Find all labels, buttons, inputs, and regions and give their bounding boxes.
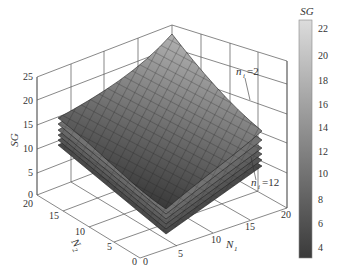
- svg-text:12: 12: [318, 146, 328, 157]
- svg-text:2: 2: [71, 247, 80, 254]
- svg-text:5: 5: [178, 248, 183, 259]
- n2-axis-label: N 2: [66, 236, 85, 255]
- svg-text:18: 18: [318, 75, 328, 86]
- n2-axis-ticks: 20 15 10 5 0: [23, 198, 137, 267]
- svg-text:15: 15: [245, 221, 255, 232]
- n1-axis-label: N 1: [225, 238, 238, 253]
- svg-text:0: 0: [132, 256, 137, 267]
- annotation-ni-2: n i =2: [236, 65, 259, 100]
- svg-text:20: 20: [23, 198, 33, 209]
- surface-chart: n i =2 n i =12 25 20 15 10 5 0 SG 20 15 …: [0, 0, 338, 271]
- svg-text:10: 10: [211, 234, 221, 245]
- z-axis-label: SG: [8, 133, 20, 147]
- svg-text:10: 10: [23, 143, 33, 154]
- svg-text:SG: SG: [300, 5, 314, 17]
- svg-text:n: n: [236, 65, 242, 77]
- svg-text:16: 16: [318, 99, 328, 110]
- svg-text:6: 6: [318, 218, 323, 229]
- svg-text:10: 10: [318, 168, 328, 179]
- svg-text:=2: =2: [247, 65, 259, 77]
- svg-text:14: 14: [318, 122, 328, 133]
- svg-text:n: n: [251, 176, 257, 188]
- svg-text:22: 22: [318, 23, 328, 34]
- svg-text:i: i: [243, 72, 245, 80]
- surface-layers: [58, 34, 262, 234]
- svg-text:4: 4: [318, 242, 323, 253]
- svg-text:15: 15: [49, 210, 59, 221]
- svg-text:20: 20: [23, 95, 33, 106]
- svg-text:8: 8: [318, 194, 323, 205]
- svg-text:5: 5: [107, 241, 112, 252]
- svg-text:15: 15: [23, 119, 33, 130]
- svg-text:0: 0: [143, 256, 148, 267]
- svg-text:25: 25: [23, 71, 33, 82]
- svg-text:=12: =12: [262, 176, 279, 188]
- svg-text:5: 5: [28, 167, 33, 178]
- svg-text:i: i: [258, 183, 260, 191]
- svg-text:20: 20: [281, 209, 291, 220]
- svg-text:20: 20: [318, 50, 328, 61]
- svg-text:N: N: [225, 238, 234, 250]
- colorbar: SG 22 20 18 16 14 12 10 8 6 4: [299, 5, 328, 258]
- svg-text:1: 1: [234, 245, 238, 253]
- z-axis-ticks: 25 20 15 10 5 0: [23, 71, 33, 200]
